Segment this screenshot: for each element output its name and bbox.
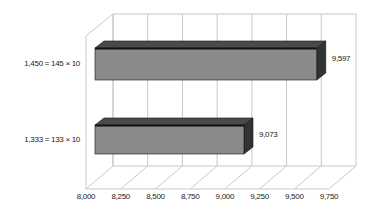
floor-gridline bbox=[121, 166, 148, 189]
bar-top-face bbox=[95, 118, 253, 125]
floor-gridline bbox=[260, 166, 287, 189]
left-wall-top-edge bbox=[86, 14, 113, 36]
floor-gridline bbox=[225, 166, 252, 189]
bar-chart bbox=[0, 0, 372, 212]
bar-top-face bbox=[95, 41, 326, 48]
bar-front-face bbox=[95, 125, 244, 154]
floor-gridline bbox=[86, 166, 113, 189]
floor-gridline bbox=[190, 166, 217, 189]
x-tick-label: 9,750 bbox=[309, 192, 349, 202]
category-label: 1,333 = 133 × 10 bbox=[0, 135, 80, 145]
floor-gridline bbox=[294, 166, 321, 189]
data-label: 9,073 bbox=[259, 130, 278, 140]
floor-gridline bbox=[329, 166, 356, 189]
data-label: 9,597 bbox=[332, 54, 351, 64]
category-label: 1,450 = 145 × 10 bbox=[0, 59, 80, 69]
bar-front-face bbox=[95, 48, 317, 80]
bar-side-face bbox=[317, 41, 326, 80]
floor-gridline bbox=[155, 166, 182, 189]
